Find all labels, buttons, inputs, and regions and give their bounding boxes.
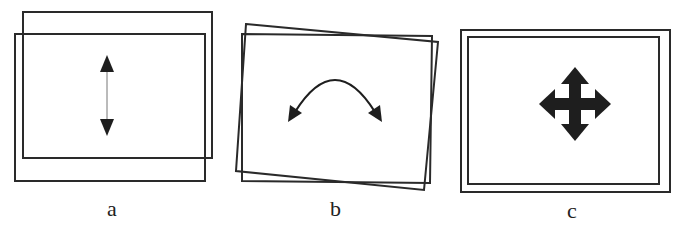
four-way-arrow-icon [539, 67, 611, 141]
vertical-double-arrow-icon [100, 55, 114, 136]
panel-a-label: a [107, 196, 117, 221]
panel-b-label: b [330, 196, 341, 221]
panel-b-rotated-rect [236, 24, 438, 190]
figure: a b c [0, 0, 686, 229]
panel-a: a [15, 12, 212, 221]
panel-c-inner-rect [468, 37, 659, 184]
panel-c: c [461, 30, 670, 223]
panel-b: b [236, 24, 438, 221]
panel-c-outer-rect [461, 30, 670, 192]
curved-double-arrow-icon [288, 80, 382, 122]
panel-b-straight-rect [242, 34, 432, 183]
panel-c-label: c [567, 198, 577, 223]
